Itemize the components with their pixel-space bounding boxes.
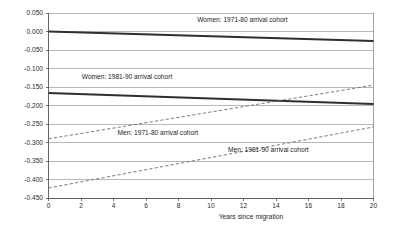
y-tick-label: -0.150 (24, 83, 43, 90)
series-label: Men: 1981-90 arrival cohort (228, 146, 309, 153)
x-tick-label: 20 (370, 202, 378, 209)
x-tick-label: 2 (79, 202, 83, 209)
x-tick-label: 6 (144, 202, 148, 209)
y-tick-label: -0.400 (24, 176, 43, 183)
x-tick-label: 14 (272, 202, 280, 209)
y-tick-label: -0.050 (24, 46, 43, 53)
x-tick-label: 16 (305, 202, 313, 209)
y-tick-label: -0.100 (24, 65, 43, 72)
x-axis-title: Years since migration (219, 213, 284, 221)
y-tick-label: -0.300 (24, 139, 43, 146)
y-tick-label: -0.350 (24, 157, 43, 164)
line-chart: 0.0500.000-0.050-0.100-0.150-0.200-0.250… (0, 0, 402, 232)
series-label: Women: 1981-90 arrival cohort (82, 73, 173, 80)
x-tick-label: 0 (47, 202, 51, 209)
y-tick-label: -0.250 (24, 120, 43, 127)
series-label: Women: 1971-80 arrival cohort (197, 16, 288, 23)
x-tick-label: 10 (207, 202, 215, 209)
x-tick-label: 18 (337, 202, 345, 209)
x-tick-label: 12 (240, 202, 248, 209)
series-label: Men: 1971-80 arrival cohort (118, 129, 199, 136)
chart-container: 0.0500.000-0.050-0.100-0.150-0.200-0.250… (0, 0, 402, 232)
y-tick-label: -0.450 (24, 194, 43, 201)
y-tick-label: -0.200 (24, 102, 43, 109)
y-tick-label: 0.000 (26, 28, 43, 35)
x-tick-label: 8 (177, 202, 181, 209)
plot-background (0, 0, 402, 232)
y-tick-label: 0.050 (26, 9, 43, 16)
x-tick-label: 4 (112, 202, 116, 209)
